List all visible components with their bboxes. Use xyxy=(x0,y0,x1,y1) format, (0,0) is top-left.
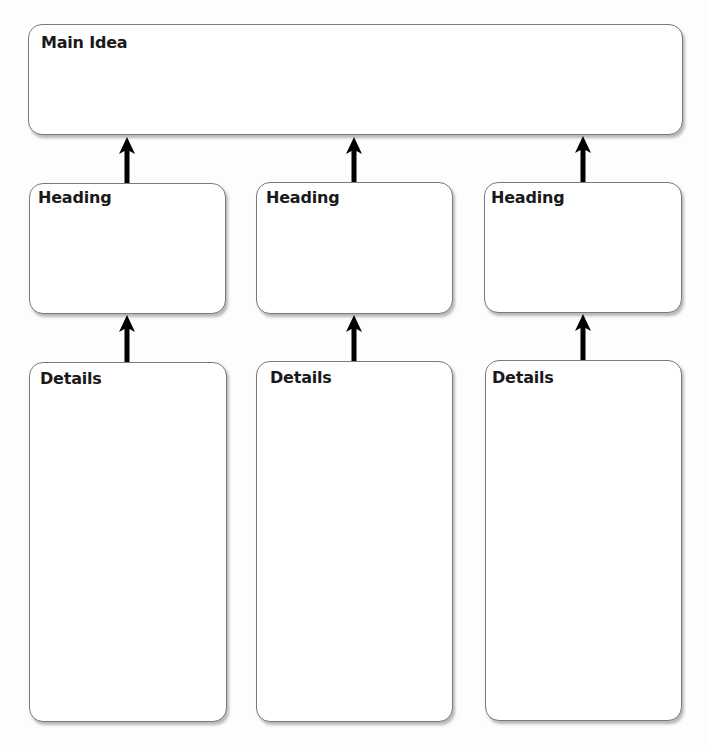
details-label: Details xyxy=(270,368,332,387)
arrow-up-icon xyxy=(118,315,136,362)
heading-label: Heading xyxy=(266,188,339,207)
details-box-1[interactable]: Details xyxy=(29,362,227,722)
arrow-up-icon xyxy=(345,315,363,362)
heading-box-2[interactable]: Heading xyxy=(256,182,453,314)
details-box-2[interactable]: Details xyxy=(256,361,453,722)
heading-label: Heading xyxy=(38,188,111,207)
details-label: Details xyxy=(40,369,102,388)
arrow-up-icon xyxy=(574,136,592,183)
heading-box-3[interactable]: Heading xyxy=(484,182,682,313)
arrow-up-icon xyxy=(118,137,136,184)
main-idea-label: Main Idea xyxy=(41,33,127,52)
arrow-up-icon xyxy=(345,137,363,184)
details-box-3[interactable]: Details xyxy=(485,360,682,721)
heading-box-1[interactable]: Heading xyxy=(29,183,226,314)
details-label: Details xyxy=(492,368,554,387)
heading-label: Heading xyxy=(491,188,564,207)
arrow-up-icon xyxy=(574,314,592,361)
main-idea-box[interactable]: Main Idea xyxy=(28,24,683,135)
